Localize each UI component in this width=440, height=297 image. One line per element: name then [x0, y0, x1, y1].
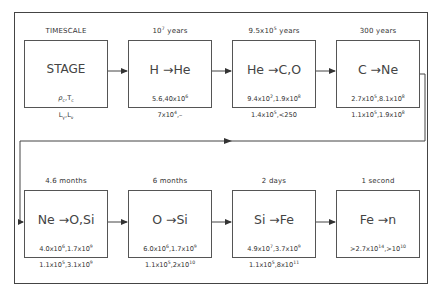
legend-timescale-label: TIMESCALE — [24, 27, 108, 35]
stage-density-temperature: 6.0x106,1.7x109 — [129, 245, 211, 253]
stage-reaction: Ne →O,Si — [25, 212, 107, 227]
stage-reaction: Si →Fe — [233, 212, 315, 227]
stage-reaction: C →Ne — [337, 62, 419, 77]
stage-box: He →C,O 9.4x102,1.9x108 — [232, 40, 316, 108]
stage-box: Si →Fe 4.9x107,3.7x109 — [232, 190, 316, 258]
legend-stage-label: STAGE — [25, 62, 107, 76]
stage-timescale: 6 months — [128, 177, 212, 185]
stage-luminosities: 1.1x105,1.9x108 — [336, 111, 420, 119]
stage-timescale: 9.5x105 years — [232, 27, 316, 35]
stage-luminosities: 1.1x105,8x1011 — [232, 261, 316, 269]
stage-box: C →Ne 2.7x105,8.1x108 — [336, 40, 420, 108]
stage-luminosities: 1.1x105,3.1x109 — [24, 261, 108, 269]
stage-density-temperature: 4.9x107,3.7x109 — [233, 245, 315, 253]
stage-reaction: O →Si — [129, 212, 211, 227]
stage-density-temperature: 5.6,40x106 — [129, 95, 211, 103]
stage-luminosities: 1.1x105,2x1010 — [128, 261, 212, 269]
stage-box: Fe →n >2.7x1014,>1010 — [336, 190, 420, 258]
stage-box: H →He 5.6,40x106 — [128, 40, 212, 108]
legend-density-temp-label: ρc,Tc — [25, 94, 107, 103]
stage-timescale: 4.6 months — [24, 177, 108, 185]
stage-reaction: He →C,O — [233, 62, 315, 77]
legend-box: STAGE ρc,Tc — [24, 40, 108, 108]
stage-density-temperature: 4.0x106,1.7x109 — [25, 245, 107, 253]
legend-luminosity-label: Lγ,Lν — [24, 111, 108, 120]
stage-density-temperature: 2.7x105,8.1x108 — [337, 95, 419, 103]
stage-timescale: 2 days — [232, 177, 316, 185]
stage-luminosities: 1.4x105,<250 — [232, 111, 316, 119]
stage-reaction: H →He — [129, 62, 211, 77]
stage-timescale: 107 years — [128, 27, 212, 35]
stage-timescale: 1 second — [336, 177, 420, 185]
stage-box: O →Si 6.0x106,1.7x109 — [128, 190, 212, 258]
stage-box: Ne →O,Si 4.0x106,1.7x109 — [24, 190, 108, 258]
stage-timescale: 300 years — [336, 27, 420, 35]
stage-density-temperature: >2.7x1014,>1010 — [337, 245, 419, 253]
stage-reaction: Fe →n — [337, 212, 419, 227]
stage-luminosities: 7x104,– — [128, 111, 212, 119]
stage-density-temperature: 9.4x102,1.9x108 — [233, 95, 315, 103]
